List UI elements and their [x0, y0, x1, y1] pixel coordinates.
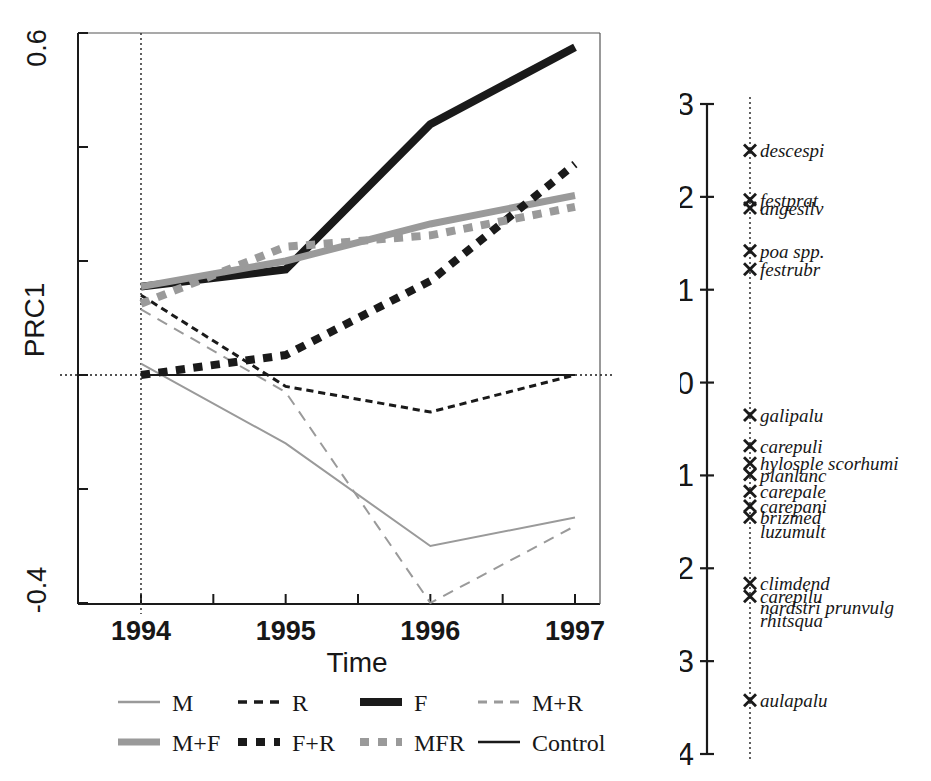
- legend-label-m-f: M+F: [172, 730, 220, 756]
- species-axis-label-neg1: -1: [680, 458, 694, 493]
- x-tick-label-1995: 1995: [256, 616, 316, 646]
- y-axis-ticks: [78, 33, 88, 603]
- species-label-rhitsqua: rhitsqua: [760, 610, 823, 631]
- species-label-luzumult: luzumult: [760, 521, 826, 542]
- legend-label-f: F: [414, 690, 427, 716]
- species-label-aulapalu: aulapalu: [760, 690, 828, 711]
- species-axis-tick-labels: 3210-1-2-3-4: [680, 87, 694, 772]
- series-layer: [141, 47, 575, 603]
- species-items: descespifestpratangesilvpoa spp.festrubr…: [744, 140, 898, 711]
- species-axis-label-neg2: -2: [680, 551, 694, 586]
- x-tick-label-1997: 1997: [545, 616, 605, 646]
- series-line-m-f: [141, 195, 575, 286]
- x-tick-label-1994: 1994: [111, 616, 171, 646]
- species-label-angesilv: angesilv: [760, 198, 824, 219]
- legend-label-f-r: F+R: [292, 730, 335, 756]
- x-axis-title: Time: [326, 647, 387, 678]
- legend: MRFM+RM+FF+RMFRControl: [118, 690, 606, 756]
- series-line-f: [141, 47, 575, 286]
- prc-main-plot: 0.6 -0.4 PRC1 1994199519961997 Time MRFM…: [0, 0, 680, 781]
- species-label-descespi: descespi: [760, 140, 824, 161]
- species-axis-svg: 3210-1-2-3-4 descespifestpratangesilvpoa…: [680, 0, 931, 781]
- species-marker-x-icon: [744, 440, 756, 452]
- prc-figure: 0.6 -0.4 PRC1 1994199519961997 Time MRFM…: [0, 0, 931, 781]
- legend-label-r: R: [292, 690, 308, 716]
- series-line-r: [141, 295, 575, 412]
- species-marker-x-icon: [744, 590, 756, 602]
- legend-label-m: M: [172, 690, 193, 716]
- species-axis-label-2: 2: [680, 180, 694, 215]
- species-marker-x-icon: [744, 500, 756, 512]
- series-line-m-r: [141, 309, 575, 603]
- legend-label-m-r: M+R: [532, 690, 583, 716]
- species-score-panel: 3210-1-2-3-4 descespifestpratangesilvpoa…: [680, 0, 931, 781]
- species-axis-label-neg3: -3: [680, 644, 694, 679]
- y-axis-bottom-label: -0.4: [22, 567, 52, 614]
- y-axis-title: PRC1: [19, 283, 50, 358]
- species-label-galipalu: galipalu: [760, 405, 823, 426]
- x-axis-tick-labels: 1994199519961997: [111, 616, 605, 646]
- species-marker-x-icon: [744, 245, 756, 257]
- prc-plot-svg: 0.6 -0.4 PRC1 1994199519961997 Time MRFM…: [0, 0, 680, 781]
- species-marker-x-icon: [744, 409, 756, 421]
- x-tick-label-1996: 1996: [400, 616, 460, 646]
- species-label-festrubr: festrubr: [760, 259, 821, 280]
- y-axis-top-label: 0.6: [22, 29, 52, 67]
- legend-label-mfr: MFR: [414, 730, 465, 756]
- x-axis-ticks: [141, 594, 575, 604]
- species-axis-label-0: 0: [680, 366, 694, 401]
- species-marker-x-icon: [744, 694, 756, 706]
- species-axis-label-neg4: -4: [680, 737, 694, 772]
- plot-frame: [78, 33, 600, 604]
- species-axis-label-3: 3: [680, 87, 694, 122]
- legend-label-control: Control: [532, 730, 606, 756]
- species-marker-x-icon: [744, 144, 756, 156]
- species-axis-label-1: 1: [680, 273, 694, 308]
